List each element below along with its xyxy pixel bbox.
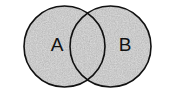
set-a-label: A: [51, 34, 64, 55]
venn-diagram-canvas: A B: [0, 0, 179, 97]
venn-diagram: A B: [0, 0, 179, 97]
set-b-label: B: [119, 34, 132, 55]
